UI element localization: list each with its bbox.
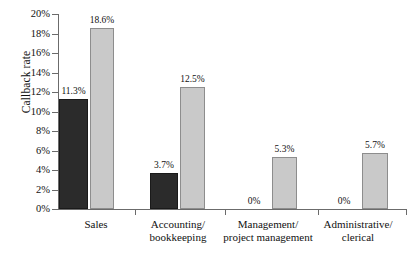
y-tick-label: 2% [6, 185, 50, 196]
y-tick-mark [52, 190, 58, 191]
plot-area: 0%2%4%6%8%10%12%14%16%18%20% 11.3%18.6%3… [58, 14, 406, 209]
y-tick-label: 14% [6, 68, 50, 79]
value-label-light-3: 5.7% [355, 141, 395, 151]
value-label-light-0: 18.6% [82, 16, 122, 26]
x-tick-mark [135, 209, 136, 215]
y-tick-label: 6% [6, 146, 50, 157]
y-tick-mark [52, 170, 58, 171]
y-axis-label: Callback rate [20, 22, 32, 142]
category-label-3: Administrative/ clerical [283, 218, 416, 244]
value-label-dark-2: 0% [234, 197, 274, 207]
x-tick-mark [225, 209, 226, 215]
bar-chart: Callback rate 0%2%4%6%8%10%12%14%16%18%2… [0, 0, 416, 262]
y-tick-mark [52, 131, 58, 132]
y-tick-label: 8% [6, 126, 50, 137]
bar-light-2 [272, 157, 297, 209]
y-tick-label: 0% [6, 204, 50, 215]
y-tick-label: 18% [6, 29, 50, 40]
bar-dark-0 [59, 99, 88, 209]
y-tick-mark [52, 209, 58, 210]
y-tick-label: 12% [6, 87, 50, 98]
value-label-dark-0: 11.3% [54, 87, 94, 97]
y-tick-label: 20% [6, 9, 50, 20]
y-tick-mark [52, 151, 58, 152]
value-label-dark-1: 3.7% [144, 161, 184, 171]
y-tick-label: 4% [6, 165, 50, 176]
y-tick-mark [52, 112, 58, 113]
x-tick-mark [318, 209, 319, 215]
y-tick-mark [52, 34, 58, 35]
x-axis-line [58, 209, 406, 210]
bar-light-3 [362, 153, 388, 209]
bar-light-0 [90, 28, 114, 209]
y-tick-mark [52, 14, 58, 15]
y-tick-mark [52, 73, 58, 74]
value-label-light-2: 5.3% [265, 145, 305, 155]
bar-light-1 [180, 87, 205, 209]
value-label-dark-3: 0% [324, 197, 364, 207]
y-tick-mark [52, 53, 58, 54]
y-tick-label: 16% [6, 48, 50, 59]
value-label-light-1: 12.5% [173, 75, 213, 85]
y-tick-label: 10% [6, 107, 50, 118]
x-tick-mark [406, 209, 407, 215]
bar-dark-1 [150, 173, 178, 209]
